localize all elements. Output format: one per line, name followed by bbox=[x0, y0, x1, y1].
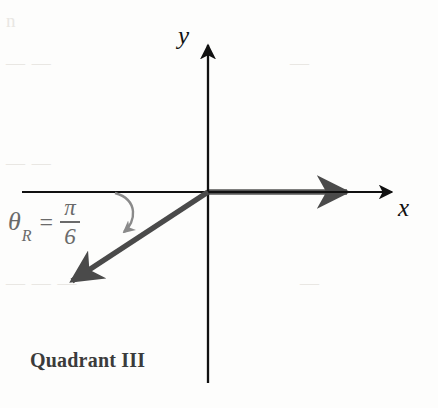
theta-symbol: θ bbox=[8, 207, 21, 237]
pi-over-six-fraction: π 6 bbox=[60, 196, 80, 248]
y-axis-label: y bbox=[178, 22, 189, 50]
quadrant-caption: Quadrant III bbox=[30, 349, 145, 372]
reference-angle-arc bbox=[115, 193, 133, 232]
reference-angle-label: θR = π 6 bbox=[8, 196, 80, 248]
terminal-side-ray bbox=[72, 192, 208, 281]
theta-subscript: R bbox=[21, 227, 32, 248]
reference-angle-figure: n — — — — — — — — — y x θR = bbox=[0, 0, 438, 408]
x-axis-label: x bbox=[398, 194, 409, 222]
fraction-numerator: π bbox=[61, 196, 79, 221]
equals-sign: = bbox=[32, 209, 61, 236]
fraction-denominator: 6 bbox=[61, 223, 79, 248]
